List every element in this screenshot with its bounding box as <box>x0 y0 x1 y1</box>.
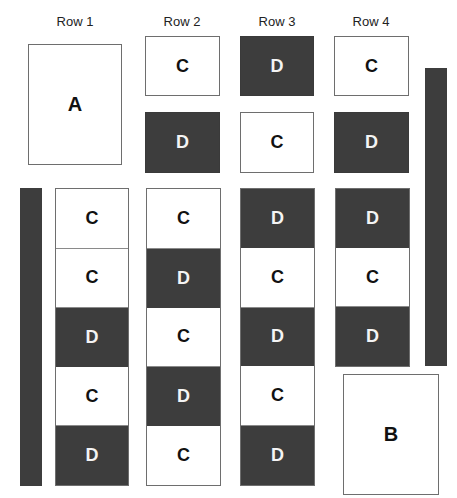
right-vertical-bar <box>425 68 447 366</box>
row2-column: C D C D C <box>146 188 221 486</box>
row4-cell-1: D <box>336 189 409 248</box>
box-a: A <box>28 44 122 165</box>
row3-cell-5: D <box>241 426 314 485</box>
header-row-1: Row 1 <box>35 14 115 29</box>
row1-column: C C D C D <box>55 188 129 486</box>
box-b: B <box>343 374 439 495</box>
row1-cell-3: D <box>56 308 128 367</box>
row1-cell-1: C <box>56 189 128 249</box>
row2-top-block-1: C <box>145 36 220 96</box>
row2-cell-5: C <box>147 426 220 485</box>
row2-cell-1: C <box>147 189 220 249</box>
row4-top-block-2: D <box>334 112 409 173</box>
row2-cell-4: D <box>147 367 220 426</box>
row3-cell-3: D <box>241 308 314 367</box>
row3-top-block-2: C <box>240 112 314 173</box>
row1-cell-4: C <box>56 367 128 427</box>
header-row-4: Row 4 <box>331 14 411 29</box>
row3-cell-2: C <box>241 248 314 308</box>
row4-top-block-1: C <box>334 36 409 96</box>
row3-top-block-1: D <box>240 36 314 96</box>
row4-column: D C D <box>335 188 410 367</box>
row4-cell-3: D <box>336 307 409 366</box>
row2-top-block-2: D <box>145 112 220 173</box>
row3-cell-1: D <box>241 189 314 248</box>
row4-cell-2: C <box>336 248 409 308</box>
header-row-3: Row 3 <box>237 14 317 29</box>
row1-cell-5: D <box>56 426 128 485</box>
row3-cell-4: C <box>241 366 314 426</box>
row2-cell-2: D <box>147 249 220 308</box>
header-row-2: Row 2 <box>142 14 222 29</box>
left-vertical-bar <box>20 188 42 486</box>
row2-cell-3: C <box>147 308 220 368</box>
row3-column: D C D C D <box>240 188 315 486</box>
row1-cell-2: C <box>56 249 128 309</box>
